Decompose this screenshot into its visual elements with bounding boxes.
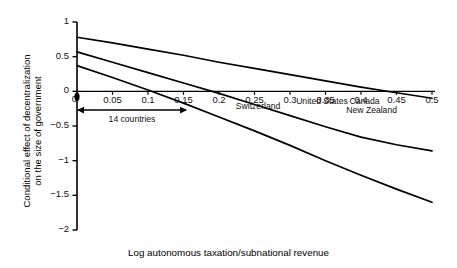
- country-united-states-label: United States: [296, 97, 348, 106]
- range-arrow-head-right: [180, 107, 187, 114]
- range-arrow-label: 14 countries: [109, 115, 156, 124]
- x-tick-label: 0.05: [103, 95, 122, 105]
- y-tick-label: −1.5: [50, 189, 69, 199]
- x-tick-label-origin: 0: [72, 94, 77, 104]
- y-tick-label: 1: [64, 16, 69, 26]
- range-arrow: [77, 107, 187, 114]
- y-tick-label: 0: [64, 85, 69, 95]
- x-tick-label: 0.1: [141, 95, 154, 105]
- x-tick-label: 0.5: [425, 95, 438, 105]
- country-new-zealand-label: New Zealand: [346, 106, 397, 115]
- range-arrow-head-left: [77, 107, 84, 114]
- x-tick-label: 0.15: [174, 95, 193, 105]
- x-tick-label: 0.2: [212, 95, 225, 105]
- x-tick-label: 0.45: [387, 95, 406, 105]
- y-tick-label: −2: [58, 224, 69, 234]
- chart-figure: Conditional effect of decentralization o…: [0, 0, 457, 268]
- y-tick-label: −0.5: [50, 120, 69, 130]
- y-tick-label: 0.5: [56, 51, 69, 61]
- x-tick-label: 0.3: [283, 95, 296, 105]
- country-switzerland-label: Switzerland: [236, 102, 280, 111]
- y-tick-label: −1: [58, 155, 69, 165]
- series-lower-confidence-bound: [77, 66, 432, 203]
